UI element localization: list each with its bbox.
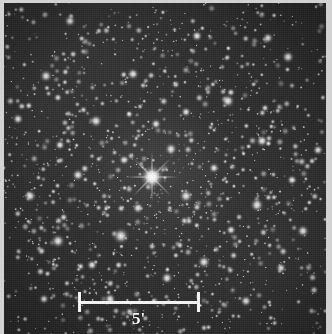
star-field-figure: 5' — [0, 0, 332, 334]
starfield-canvas — [4, 3, 326, 334]
scale-bar-label: 5' — [132, 310, 145, 327]
sky-image — [4, 3, 326, 334]
